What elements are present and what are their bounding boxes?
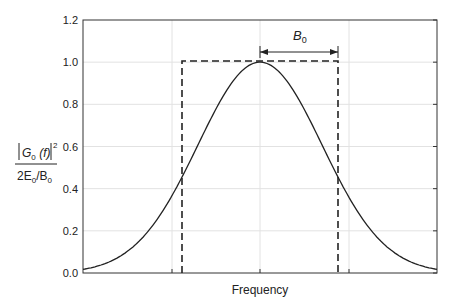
svg-text:1.2: 1.2 bbox=[63, 14, 78, 26]
b0-label: B0 bbox=[293, 28, 307, 45]
svg-text:1.0: 1.0 bbox=[63, 56, 78, 68]
chart: 0.00.20.40.60.81.01.2 B0 Frequency G0 (f… bbox=[0, 0, 453, 307]
svg-text:0.6: 0.6 bbox=[63, 141, 78, 153]
svg-text:2E0/B0: 2E0/B0 bbox=[17, 169, 52, 185]
svg-text:G0 (f): G0 (f) bbox=[22, 146, 50, 162]
svg-text:0.8: 0.8 bbox=[63, 98, 78, 110]
svg-text:0.4: 0.4 bbox=[63, 183, 78, 195]
b0-arrow bbox=[260, 46, 338, 58]
svg-text:0.0: 0.0 bbox=[63, 267, 78, 279]
chart-svg: 0.00.20.40.60.81.01.2 B0 Frequency G0 (f… bbox=[0, 0, 453, 307]
svg-text:0.2: 0.2 bbox=[63, 225, 78, 237]
y-axis-label: G0 (f) 2 2E0/B0 bbox=[15, 141, 58, 185]
x-axis-label: Frequency bbox=[232, 283, 289, 297]
svg-text:2: 2 bbox=[53, 141, 58, 150]
